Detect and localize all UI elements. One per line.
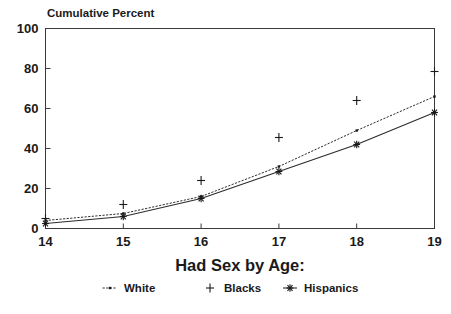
- x-tick-label: 18: [349, 234, 363, 249]
- data-point-white-age-19: [433, 95, 435, 97]
- data-point-hispanics-age-19: [431, 109, 438, 117]
- cumulative-percent-line-chart: Cumulative Percent 020406080100 14151617…: [0, 0, 451, 314]
- x-tick-label: 17: [272, 234, 286, 249]
- legend-marker-asterisk-icon: [287, 284, 294, 292]
- data-point-hispanics-age-14: [42, 220, 49, 228]
- x-tick-label: 16: [194, 234, 208, 249]
- x-tick-label: 14: [38, 234, 53, 249]
- data-point-hispanics-age-15: [120, 213, 127, 221]
- y-tick-label: 80: [24, 61, 38, 76]
- legend-label-hispanics: Hispanics: [304, 282, 358, 294]
- data-point-white-age-17: [278, 165, 280, 167]
- legend-marker-dot-icon: [109, 287, 111, 289]
- x-tick-label: 15: [116, 234, 130, 249]
- chart-legend: WhiteBlacksHispanics: [103, 282, 358, 294]
- data-point-hispanics-age-16: [198, 195, 205, 203]
- plot-title: Cumulative Percent: [47, 7, 155, 19]
- y-tick-label: 40: [24, 141, 38, 156]
- data-point-hispanics-age-18: [353, 141, 360, 149]
- data-point-white-age-18: [356, 129, 358, 131]
- legend-label-blacks: Blacks: [224, 282, 261, 294]
- x-tick-label: 19: [427, 234, 441, 249]
- data-point-hispanics-age-17: [276, 168, 283, 176]
- legend-label-white: White: [124, 282, 155, 294]
- y-tick-label: 20: [24, 181, 38, 196]
- x-axis-title: Had Sex by Age:: [175, 256, 305, 274]
- chart-figure: Cumulative Percent 020406080100 14151617…: [0, 0, 451, 314]
- y-tick-label: 60: [24, 101, 38, 116]
- y-tick-label: 100: [17, 21, 39, 36]
